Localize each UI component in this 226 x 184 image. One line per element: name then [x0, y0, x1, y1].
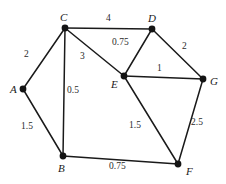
graph-node-e [121, 73, 128, 80]
edge-weight-d-g: 2 [182, 42, 187, 52]
node-label-a: A [10, 84, 17, 95]
graph-edge-c-d [65, 28, 152, 29]
edge-weight-c-b: 0.5 [67, 86, 79, 96]
node-label-g: G [210, 76, 218, 87]
graph-node-d [149, 26, 156, 33]
graph-node-c [62, 25, 69, 32]
graph-canvas [0, 0, 226, 184]
node-label-e: E [111, 79, 118, 90]
edge-weight-d-e: 0.75 [112, 38, 129, 48]
graph-edge-a-c [23, 28, 65, 89]
graph-edge-e-g [124, 76, 203, 79]
edge-weight-g-f: 2.5 [191, 118, 203, 128]
graph-node-a [20, 86, 27, 93]
edge-weight-c-d: 4 [106, 14, 111, 24]
node-label-d: D [148, 13, 156, 24]
edge-weight-e-g: 1 [157, 64, 162, 74]
edge-weight-a-b: 1.5 [21, 122, 33, 132]
node-label-f: F [186, 166, 193, 177]
graph-node-b [60, 153, 67, 160]
graph-node-g [200, 76, 207, 83]
edge-weight-b-f: 0.75 [109, 162, 126, 172]
graph-edge-c-e [65, 28, 124, 76]
graph-figure: ABCDEFG 21.5430.50.75211.52.50.75 [0, 0, 226, 184]
edge-weight-e-f: 1.5 [129, 121, 141, 131]
graph-edge-c-b [63, 28, 65, 156]
node-label-c: C [60, 12, 67, 23]
edge-weight-c-e: 3 [80, 52, 85, 62]
node-label-b: B [58, 163, 65, 174]
edges-group [23, 28, 203, 164]
edge-weight-a-c: 2 [24, 50, 29, 60]
graph-node-f [175, 161, 182, 168]
